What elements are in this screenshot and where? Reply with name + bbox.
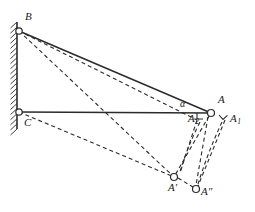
- node-a: [208, 110, 215, 117]
- wall-hatch-stroke: [11, 37, 18, 43]
- Aprime-to-Adoubleprime: [178, 178, 193, 187]
- B-to-Aprime: [19, 31, 174, 177]
- wall-hatch-stroke: [11, 129, 18, 135]
- text-label-a1: A1: [229, 112, 241, 126]
- B-to-A2: [19, 31, 197, 120]
- wall-hatch-stroke: [11, 93, 18, 99]
- wall-hatch-group: [11, 22, 18, 135]
- arc-A-to-Aprime: [180, 122, 200, 172]
- wall-hatch-stroke: [11, 53, 18, 59]
- node-group: BCAA′A″: [16, 10, 225, 197]
- subscript: 1: [237, 117, 241, 126]
- node-label-b: B: [25, 10, 32, 22]
- node-label-c: C: [24, 116, 32, 128]
- dashed-members-group: [19, 31, 225, 187]
- text-label-alpha: α: [180, 98, 186, 109]
- node-ap: [171, 174, 178, 181]
- A2-to-Aprime: [180, 120, 197, 173]
- wall-hatch-stroke: [11, 58, 18, 64]
- wall-hatch-stroke: [11, 124, 18, 130]
- node-label-ap: A′: [167, 181, 178, 193]
- node-label-app: A″: [200, 185, 213, 197]
- wall-hatch-stroke: [11, 114, 18, 120]
- wall-hatch-stroke: [11, 98, 18, 104]
- node-c: [16, 109, 22, 115]
- wall-hatch-stroke: [11, 88, 18, 94]
- right-angle-at-A1: [219, 111, 227, 119]
- node-b: [16, 28, 22, 34]
- wall-hatch-stroke: [11, 104, 18, 110]
- wall-hatch-stroke: [11, 63, 18, 69]
- geometry-figure: BCAA′A″ αA2A1: [0, 0, 255, 212]
- node-app: [193, 186, 200, 193]
- wall-hatch-stroke: [11, 68, 18, 74]
- diagram-canvas: BCAA′A″ αA2A1: [0, 0, 255, 212]
- wall-hatch-stroke: [11, 83, 18, 89]
- C-to-Aprime: [19, 112, 174, 177]
- arc-group: [180, 122, 222, 184]
- subscript: 2: [195, 117, 199, 126]
- wall-hatch-stroke: [11, 42, 18, 48]
- node-label-a: A: [217, 93, 225, 105]
- hatched-wall: [11, 22, 18, 135]
- wall-hatch-stroke: [11, 73, 18, 79]
- wall-hatch-stroke: [11, 78, 18, 84]
- wall-hatch-stroke: [11, 47, 18, 53]
- wall-hatch-stroke: [11, 22, 18, 28]
- wall-hatch-stroke: [11, 119, 18, 125]
